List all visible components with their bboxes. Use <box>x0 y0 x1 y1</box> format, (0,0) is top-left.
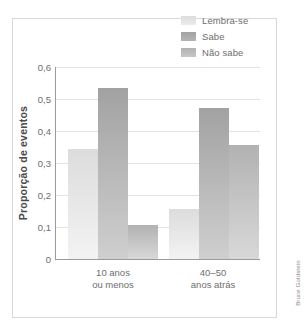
y-tick-label: 0,3 <box>38 158 51 169</box>
y-axis-title: Proporção de eventos <box>16 67 30 259</box>
legend-swatch-icon <box>181 16 196 25</box>
chart-legend: Lembra-se Sabe Não sabe <box>181 13 271 61</box>
x-category-line1: 40–50 <box>163 267 263 279</box>
credit-attribution: Bruce Goldstein <box>292 243 304 323</box>
plot-area: 0,6 0,5 0,4 0,3 0,2 0,1 0 10 anos ou men… <box>55 67 260 259</box>
bar-sabe-grupo2 <box>199 108 229 259</box>
bar-lembra-se-grupo2 <box>169 209 199 259</box>
bar-nao-sabe-grupo2 <box>229 145 259 259</box>
legend-label: Lembra-se <box>202 15 248 26</box>
x-category-line2: anos atrás <box>163 279 263 291</box>
y-axis-title-text: Proporção de eventos <box>17 106 29 220</box>
y-tick-label: 0,6 <box>38 62 51 73</box>
legend-label: Sabe <box>202 31 225 42</box>
legend-item-nao-sabe: Não sabe <box>181 45 271 59</box>
y-tick-label: 0,2 <box>38 190 51 201</box>
x-category-line2: ou menos <box>63 279 163 291</box>
legend-item-sabe: Sabe <box>181 29 271 43</box>
y-tick-label: 0 <box>46 254 51 265</box>
bar-nao-sabe-grupo1 <box>128 225 158 259</box>
legend-swatch-icon <box>181 32 196 41</box>
bar-sabe-grupo1 <box>98 88 128 259</box>
credit-text: Bruce Goldstein <box>295 260 301 306</box>
x-category-label-1: 10 anos ou menos <box>63 267 163 291</box>
y-tick-label: 0,4 <box>38 126 51 137</box>
legend-item-lembra-se: Lembra-se <box>181 13 271 27</box>
x-category-line1: 10 anos <box>63 267 163 279</box>
gridline: 0 <box>56 259 260 260</box>
x-category-label-2: 40–50 anos atrás <box>163 267 263 291</box>
y-tick-label: 0,1 <box>38 222 51 233</box>
legend-label: Não sabe <box>202 47 243 58</box>
y-tick-label: 0,5 <box>38 94 51 105</box>
bar-lembra-se-grupo1 <box>68 149 98 259</box>
bars-layer <box>56 67 260 259</box>
legend-swatch-icon <box>181 48 196 57</box>
